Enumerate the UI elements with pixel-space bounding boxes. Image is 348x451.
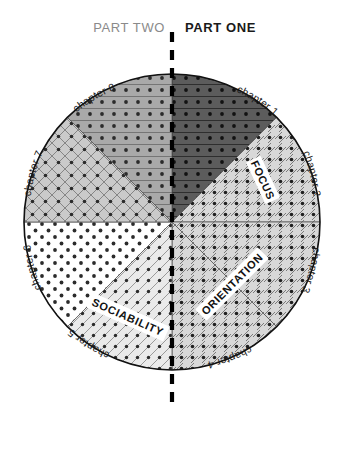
diagram-page: PART TWO PART ONE: [0, 0, 348, 451]
chapter-wheel-diagram: chapter 1 chapter 2 chapter 3 chapter 4 …: [0, 0, 348, 451]
